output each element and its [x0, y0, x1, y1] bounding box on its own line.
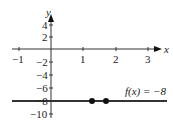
y-tick-label: −8	[36, 95, 48, 107]
data-point	[103, 98, 109, 104]
y-tick-label: −6	[36, 82, 48, 94]
chart: y x −1 1 2 3 4 2 −2 −4 −6 −8 −10 f(x) = …	[0, 0, 173, 128]
x-axis-arrow-icon	[154, 46, 162, 52]
x-tick-label: 1	[80, 53, 86, 65]
function-annotation: f(x) = −8	[125, 85, 167, 98]
x-tick-label: 2	[113, 53, 119, 65]
y-tick-label: −10	[30, 108, 48, 120]
x-tick-label: 3	[145, 53, 151, 65]
y-tick-label: −2	[36, 56, 48, 68]
y-tick-label: 4	[42, 19, 48, 31]
data-point	[89, 98, 95, 104]
x-axis-label: x	[163, 43, 169, 55]
x-tick-label: −1	[12, 53, 24, 65]
y-axis-label: y	[45, 6, 51, 18]
y-tick-label: −4	[36, 69, 48, 81]
function-graph: y x −1 1 2 3 4 2 −2 −4 −6 −8 −10 f(x) = …	[0, 0, 173, 128]
y-tick-label: 2	[42, 31, 48, 43]
